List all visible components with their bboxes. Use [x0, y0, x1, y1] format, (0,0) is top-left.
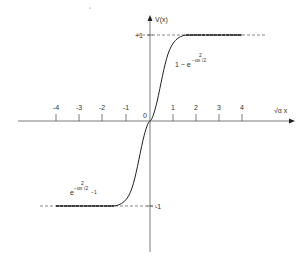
annotation-upper: 1 − e −αx 2 /2: [175, 52, 206, 68]
y-axis-label: V(x): [155, 16, 168, 24]
x-tick-labels: -4 -3 -2 -1 1 2 3 4: [53, 104, 244, 111]
x-tick-label: 4: [240, 104, 244, 111]
sigmoid-chart: -4 -3 -2 -1 1 2 3 4 0 +1 -1 V(x) √α x 1 …: [0, 0, 305, 268]
x-tick-label: 3: [217, 104, 221, 111]
annotation-upper-tail: /2: [202, 57, 206, 63]
x-tick-label: -2: [99, 104, 105, 111]
x-tick-label: 1: [171, 104, 175, 111]
annotation-lower-suffix: −1: [91, 189, 97, 195]
y-tick-label-plus-one: +1: [135, 32, 143, 39]
x-tick-label: 2: [194, 104, 198, 111]
x-ticks: [56, 114, 242, 121]
annotation-lower: e −αx 2 /2 −1: [70, 180, 97, 196]
sigmoid-curve: [56, 35, 242, 206]
y-tick-label-minus-one: -1: [155, 203, 161, 210]
annotation-upper-base: 1 − e: [175, 61, 191, 68]
annotation-lower-tail: /2: [84, 185, 88, 191]
origin-label: 0: [143, 112, 147, 119]
x-tick-label: -3: [76, 104, 82, 111]
x-axis-arrow-icon: [289, 119, 295, 124]
x-tick-label: -4: [53, 104, 59, 111]
x-axis-label: √α x: [274, 107, 288, 114]
y-axis-arrow-icon: [148, 15, 153, 21]
x-tick-label: -1: [123, 104, 129, 111]
stray-mark: [89, 7, 90, 8]
